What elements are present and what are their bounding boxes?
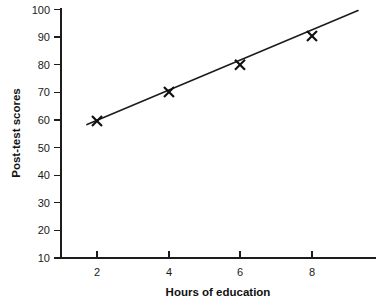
data-point-4 <box>307 31 317 41</box>
chart-container: 100 90 80 70 60 50 40 30 20 10 2 4 6 8 <box>0 0 380 306</box>
y-axis-ticks <box>54 10 61 259</box>
y-tick-label-70: 70 <box>38 86 50 98</box>
x-tick-label-4: 4 <box>166 266 172 278</box>
y-tick-label-50: 50 <box>38 142 50 154</box>
x-tick-label-8: 8 <box>309 266 315 278</box>
x-tick-label-2: 2 <box>94 266 100 278</box>
line-chart-plot: 100 90 80 70 60 50 40 30 20 10 2 4 6 8 <box>0 0 380 306</box>
y-tick-label-90: 90 <box>38 31 50 43</box>
data-point-3 <box>235 60 245 70</box>
trend-line <box>87 11 358 125</box>
y-axis-tick-labels: 100 90 80 70 60 50 40 30 20 10 <box>32 4 50 265</box>
y-tick-label-30: 30 <box>38 197 50 209</box>
data-point-markers <box>92 31 317 126</box>
y-axis-title: Post-test scores <box>10 88 22 177</box>
x-tick-label-6: 6 <box>237 266 243 278</box>
y-tick-label-20: 20 <box>38 224 50 236</box>
y-tick-label-80: 80 <box>38 59 50 71</box>
x-axis-tick-labels: 2 4 6 8 <box>94 266 315 278</box>
x-axis-ticks <box>97 251 312 258</box>
axis-lines <box>61 8 376 258</box>
y-tick-label-100: 100 <box>32 4 50 16</box>
y-tick-label-40: 40 <box>38 169 50 181</box>
y-tick-label-60: 60 <box>38 114 50 126</box>
x-axis-title: Hours of education <box>166 286 271 298</box>
y-tick-label-10: 10 <box>38 252 50 264</box>
